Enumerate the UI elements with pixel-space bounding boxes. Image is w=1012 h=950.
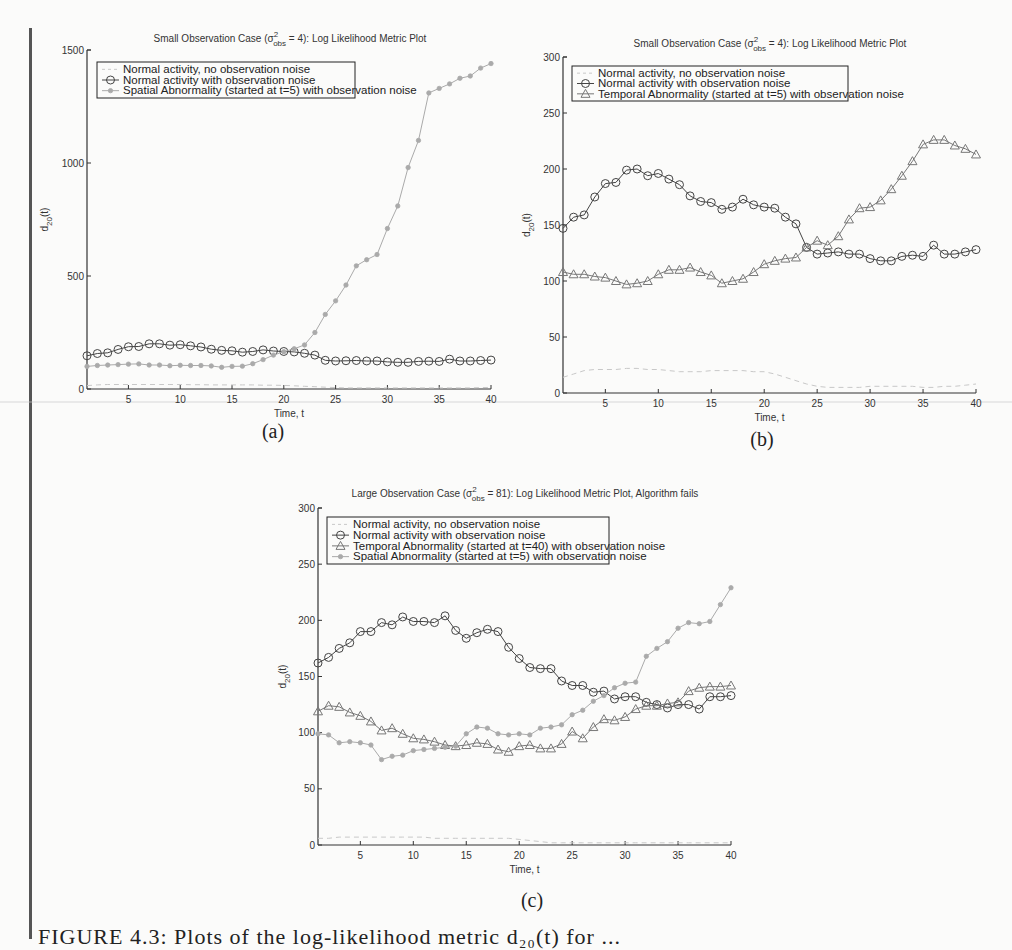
x-tick-label: 30 xyxy=(620,850,632,861)
data-point xyxy=(422,747,426,751)
series-line-1 xyxy=(318,837,731,843)
data-point xyxy=(665,639,669,643)
x-tick-label: 40 xyxy=(725,850,737,861)
data-point xyxy=(919,140,928,148)
data-point xyxy=(447,82,451,86)
legend-marker xyxy=(108,88,112,92)
data-point xyxy=(230,364,234,368)
y-tick-label: 150 xyxy=(298,671,315,682)
chart-panel-a: Small Observation Case (σ2obs = 4): Log … xyxy=(39,30,497,443)
chart-title: Large Observation Case (σ2obs = 81): Log… xyxy=(352,485,699,503)
data-point xyxy=(375,252,379,256)
data-point xyxy=(147,363,151,367)
x-tick-label: 10 xyxy=(175,394,187,405)
data-point xyxy=(326,733,330,737)
legend-entry: Spatial Abnormality (started at t=5) wit… xyxy=(123,84,417,96)
data-point xyxy=(106,363,110,367)
data-point xyxy=(199,363,203,367)
data-point xyxy=(85,364,89,368)
data-point xyxy=(406,165,410,169)
x-tick-label: 20 xyxy=(278,394,290,405)
legend-entry: Spatial Abnormality (started at t=5) wit… xyxy=(353,550,647,562)
data-point xyxy=(388,724,397,732)
data-point xyxy=(251,361,255,365)
data-point xyxy=(126,362,130,366)
series-line-1 xyxy=(87,385,491,388)
data-point xyxy=(95,363,99,367)
data-point xyxy=(686,263,695,271)
data-point xyxy=(655,646,659,650)
y-axis-label: d20(t) xyxy=(521,213,536,237)
data-point xyxy=(464,732,468,736)
x-tick-label: 20 xyxy=(514,850,526,861)
data-point xyxy=(416,138,420,142)
data-point xyxy=(538,726,542,730)
y-tick-label: 200 xyxy=(298,615,315,626)
data-point xyxy=(443,745,447,749)
data-point xyxy=(475,725,479,729)
data-point xyxy=(354,264,358,268)
data-point xyxy=(453,744,457,748)
y-tick-label: 1500 xyxy=(62,45,85,56)
data-point xyxy=(468,74,472,78)
y-tick-label: 500 xyxy=(67,271,84,282)
data-point xyxy=(644,654,648,658)
x-tick-label: 10 xyxy=(408,850,420,861)
x-tick-label: 35 xyxy=(672,850,684,861)
series-line-2 xyxy=(87,344,491,363)
data-point xyxy=(209,364,213,368)
data-point xyxy=(432,746,436,750)
data-point xyxy=(337,741,341,745)
data-point xyxy=(261,357,265,361)
chart-title: Small Observation Case (σ2obs = 4): Log … xyxy=(154,30,427,48)
y-tick-label: 0 xyxy=(309,840,315,851)
y-tick-label: 100 xyxy=(543,276,560,287)
series-line-2 xyxy=(318,616,731,709)
y-axis-label: d20(t) xyxy=(277,665,292,689)
x-tick-label: 25 xyxy=(330,394,342,405)
data-point xyxy=(188,363,192,367)
data-point xyxy=(358,741,362,745)
data-point xyxy=(676,626,680,630)
data-point xyxy=(292,347,296,351)
data-point xyxy=(240,364,244,368)
data-point xyxy=(517,732,521,736)
x-tick-label: 35 xyxy=(917,398,929,409)
data-point xyxy=(302,343,306,347)
data-point xyxy=(157,363,161,367)
series-line-1 xyxy=(563,368,976,387)
data-point xyxy=(323,312,327,316)
data-point xyxy=(612,686,616,690)
data-point xyxy=(437,86,441,90)
data-point xyxy=(478,66,482,70)
y-tick-label: 250 xyxy=(298,559,315,570)
data-point xyxy=(396,204,400,208)
x-tick-label: 10 xyxy=(653,398,665,409)
data-point xyxy=(581,708,585,712)
y-tick-label: 150 xyxy=(543,220,560,231)
data-point xyxy=(559,723,563,727)
panel-label: (c) xyxy=(521,889,543,912)
data-point xyxy=(364,258,368,262)
data-point xyxy=(385,226,389,230)
legend-entry: Temporal Abnormality (started at t=5) wi… xyxy=(598,88,904,100)
data-point xyxy=(282,350,286,354)
data-point xyxy=(729,586,733,590)
series-line-3 xyxy=(318,686,731,752)
data-point xyxy=(570,712,574,716)
figure-caption: FIGURE 4.3: Plots of the log-likelihood … xyxy=(38,924,621,950)
data-point xyxy=(401,753,405,757)
panel-label: (b) xyxy=(750,428,773,451)
series-line-2 xyxy=(563,169,976,261)
chart-panel-b: Small Observation Case (σ2obs = 4): Log … xyxy=(521,35,982,451)
data-point xyxy=(348,739,352,743)
y-tick-label: 50 xyxy=(549,332,561,343)
x-tick-label: 30 xyxy=(382,394,394,405)
data-point xyxy=(929,135,938,143)
data-point xyxy=(940,135,949,143)
y-tick-label: 50 xyxy=(304,783,316,794)
data-point xyxy=(344,283,348,287)
data-point xyxy=(506,733,510,737)
data-point xyxy=(458,76,462,80)
